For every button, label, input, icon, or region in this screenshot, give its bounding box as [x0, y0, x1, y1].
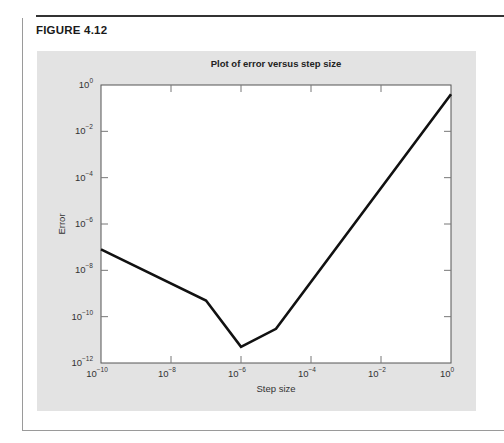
chart-svg: 10−1010−810−610−410−2100 10010−210−410−6…	[0, 0, 504, 443]
x-tick-label: 100	[440, 366, 455, 379]
y-tick-label: 10−8	[75, 262, 93, 275]
y-tick-label: 10−12	[71, 355, 93, 368]
x-tick-label: 10−2	[368, 366, 386, 379]
y-tick-label: 10−2	[75, 123, 93, 136]
y-tick-label: 10−4	[75, 170, 93, 183]
plot-area	[101, 85, 451, 363]
x-tick-label: 10−6	[228, 366, 246, 379]
y-tick-label: 100	[79, 77, 94, 90]
x-axis-label: Step size	[256, 383, 295, 394]
x-tick-label: 10−8	[158, 366, 176, 379]
y-tick-label: 10−6	[75, 216, 93, 229]
y-axis-label: Error	[56, 213, 67, 234]
x-tick-label: 10−10	[86, 366, 108, 379]
y-tick-label: 10−10	[71, 309, 93, 322]
x-tick-label: 10−4	[298, 366, 316, 379]
